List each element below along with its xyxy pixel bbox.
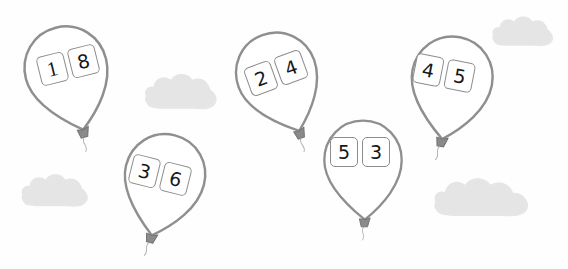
cloud-bottom-right bbox=[429, 172, 533, 220]
balloon-5[interactable] bbox=[390, 20, 507, 168]
worksheet-canvas: 1 8 2 4 3 6 5 3 bbox=[0, 0, 568, 269]
cloud-top-center bbox=[141, 68, 219, 112]
digit-box-left[interactable]: 5 bbox=[330, 137, 358, 167]
balloon-shape-icon bbox=[7, 8, 133, 161]
digit-box-left[interactable]: 4 bbox=[412, 53, 445, 88]
cloud-shape-icon bbox=[429, 172, 533, 220]
digit-box-right[interactable]: 3 bbox=[362, 137, 390, 167]
cloud-shape-icon bbox=[141, 68, 219, 112]
balloon-shape-icon bbox=[390, 20, 507, 168]
balloon-4-digit-boxes: 5 3 bbox=[330, 137, 390, 167]
balloon-1[interactable] bbox=[7, 8, 133, 161]
digit-box-right[interactable]: 5 bbox=[443, 59, 476, 94]
cloud-shape-icon bbox=[18, 168, 90, 210]
cloud-bottom-left bbox=[18, 168, 90, 210]
digit-box-left[interactable]: 3 bbox=[127, 153, 161, 189]
